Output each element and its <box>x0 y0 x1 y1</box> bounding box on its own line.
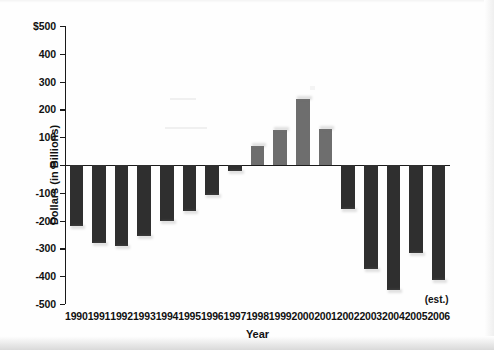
y-axis-tick-label: 300 <box>39 76 56 88</box>
x-axis-tick-label: 1990 <box>65 310 88 322</box>
y-axis-tick-mark <box>60 221 65 222</box>
scan-artifact <box>165 127 207 129</box>
plot-area: $5004003002001000-100-200-300-400-500 19… <box>65 26 450 304</box>
bar-1996 <box>205 165 219 195</box>
bar-2003 <box>364 165 378 269</box>
y-axis-tick-mark <box>60 248 65 249</box>
bar-2001 <box>319 129 333 165</box>
x-axis-tick-label: 1994 <box>156 310 179 322</box>
y-axis-tick-label: -100 <box>35 187 56 199</box>
bar-2005 <box>409 165 423 253</box>
y-axis-tick-mark <box>60 137 65 138</box>
bar-1994 <box>160 165 174 221</box>
page-edge-right <box>484 0 494 350</box>
bar-1992 <box>115 165 129 246</box>
x-axis-tick-label: 1993 <box>133 310 156 322</box>
x-axis-title: Year <box>65 328 450 340</box>
y-axis-tick-mark <box>60 54 65 55</box>
scan-artifact <box>170 98 196 100</box>
y-axis-tick-mark <box>60 26 65 27</box>
x-axis-tick-label: 2001 <box>314 310 337 322</box>
bar-2002 <box>341 165 355 209</box>
bar-2004 <box>387 165 401 290</box>
x-axis-tick-label: 2005 <box>405 310 428 322</box>
bar-1991 <box>92 165 106 243</box>
x-axis-tick-label: 2003 <box>359 310 382 322</box>
y-axis-tick-label: 200 <box>39 103 56 115</box>
y-axis-tick-label: -300 <box>35 242 56 254</box>
x-axis-tick-label: 1998 <box>246 310 269 322</box>
x-axis-tick-label: 1992 <box>110 310 133 322</box>
x-axis-tick-label: 1995 <box>178 310 201 322</box>
x-axis-tick-label: 2000 <box>292 310 315 322</box>
x-axis-tick-label: 1991 <box>88 310 111 322</box>
bar-1993 <box>137 165 151 236</box>
bar-1997 <box>228 165 242 171</box>
y-axis-tick-label: -400 <box>35 270 56 282</box>
x-axis-tick-label: 2006 <box>427 310 450 322</box>
x-axis-tick-label: 2002 <box>337 310 360 322</box>
x-axis-tick-label: 1997 <box>224 310 247 322</box>
x-axis-tick-label: 2004 <box>382 310 405 322</box>
bar-1999 <box>273 130 287 165</box>
bar-1995 <box>183 165 197 211</box>
y-axis-tick-label: 100 <box>39 131 56 143</box>
x-axis-tick-label: 1996 <box>201 310 224 322</box>
x-axis-tick-label: 1999 <box>269 310 292 322</box>
chart-figure: Dollars (in Billions) $5004003002001000-… <box>0 0 494 350</box>
y-axis-tick-mark <box>60 82 65 83</box>
bar-2000 <box>296 99 310 165</box>
bar-1990 <box>70 165 84 226</box>
y-axis-tick-label: 400 <box>39 48 56 60</box>
y-axis-tick-label: -500 <box>35 298 56 310</box>
scan-artifact <box>310 86 315 90</box>
page-edge-top <box>0 0 494 3</box>
bar-1998 <box>251 146 265 165</box>
bar-2006 <box>432 165 446 280</box>
y-axis-tick-mark <box>60 276 65 277</box>
estimate-annotation: (est.) <box>425 294 449 305</box>
y-axis-tick-label: $500 <box>33 20 56 32</box>
y-axis-tick-mark <box>60 304 65 305</box>
y-axis-tick-label: -200 <box>35 215 56 227</box>
y-axis-tick-mark <box>60 109 65 110</box>
y-axis-tick-label: 0 <box>50 159 56 171</box>
y-axis-tick-mark <box>60 193 65 194</box>
y-axis-tick-mark <box>60 165 65 166</box>
